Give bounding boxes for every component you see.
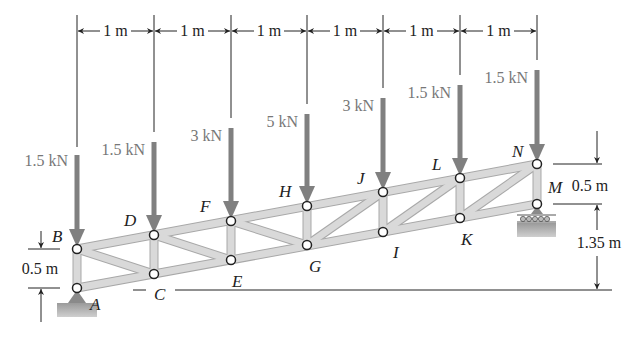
joint-a (73, 284, 82, 293)
node-label-c: C (154, 285, 166, 304)
panel-dim-3: 1 m (257, 22, 282, 39)
joint-l (456, 174, 465, 183)
joint-g (303, 241, 312, 250)
node-label-i: I (392, 243, 400, 262)
joint-f (227, 217, 236, 226)
node-label-n: N (511, 142, 525, 161)
node-label-f: F (199, 197, 211, 216)
load-label-d: 1.5 kN (101, 141, 145, 158)
joint-h (303, 202, 312, 211)
node-label-g: G (309, 257, 321, 276)
node-label-j: J (357, 169, 366, 188)
panel-dim-4: 1 m (333, 22, 358, 39)
load-label-n: 1.5 kN (484, 69, 528, 86)
node-label-m: M (547, 178, 563, 197)
load-arrow-l (452, 85, 468, 176)
node-label-l: L (431, 155, 441, 174)
joint-n (533, 160, 542, 169)
right-elevation-dimension: 1.35 m (577, 205, 622, 289)
load-label-j: 3 kN (342, 97, 374, 114)
load-arrow-d (146, 142, 162, 233)
load-label-l: 1.5 kN (407, 84, 451, 101)
panel-dim-6: 1 m (486, 22, 511, 39)
load-arrow-f (223, 128, 239, 219)
node-label-h: H (278, 182, 293, 201)
right-height-label: 0.5 m (572, 177, 609, 194)
load-label-h: 5 kN (266, 113, 298, 130)
joint-m (533, 200, 542, 209)
joint-e (227, 256, 236, 265)
load-label-b: 1.5 kN (24, 152, 68, 169)
truss-diagram: 1 m 1 m 1 m 1 m 1 m 1 m (0, 0, 635, 338)
joint-b (73, 245, 82, 254)
member-fg (231, 221, 307, 245)
joint-d (150, 231, 159, 240)
panel-dim-5: 1 m (409, 22, 434, 39)
member-bc (77, 249, 154, 274)
panel-dim-2: 1 m (180, 22, 205, 39)
left-height-label: 0.5 m (22, 260, 59, 277)
panel-dim-1: 1 m (103, 22, 128, 39)
node-label-a: A (89, 295, 101, 314)
load-arrow-j (375, 98, 391, 190)
joint-j (379, 188, 388, 197)
node-label-e: E (231, 272, 243, 291)
load-label-f: 3 kN (190, 127, 222, 144)
joint-c (150, 270, 159, 279)
node-label-b: B (52, 227, 63, 246)
joint-k (456, 214, 465, 223)
load-arrow-b (69, 155, 85, 247)
node-label-d: D (123, 211, 137, 230)
joint-i (379, 228, 388, 237)
load-arrow-n (529, 70, 545, 162)
load-arrow-h (299, 114, 315, 204)
member-de (154, 235, 231, 260)
node-label-k: K (460, 230, 474, 249)
right-elevation-label: 1.35 m (577, 234, 622, 251)
